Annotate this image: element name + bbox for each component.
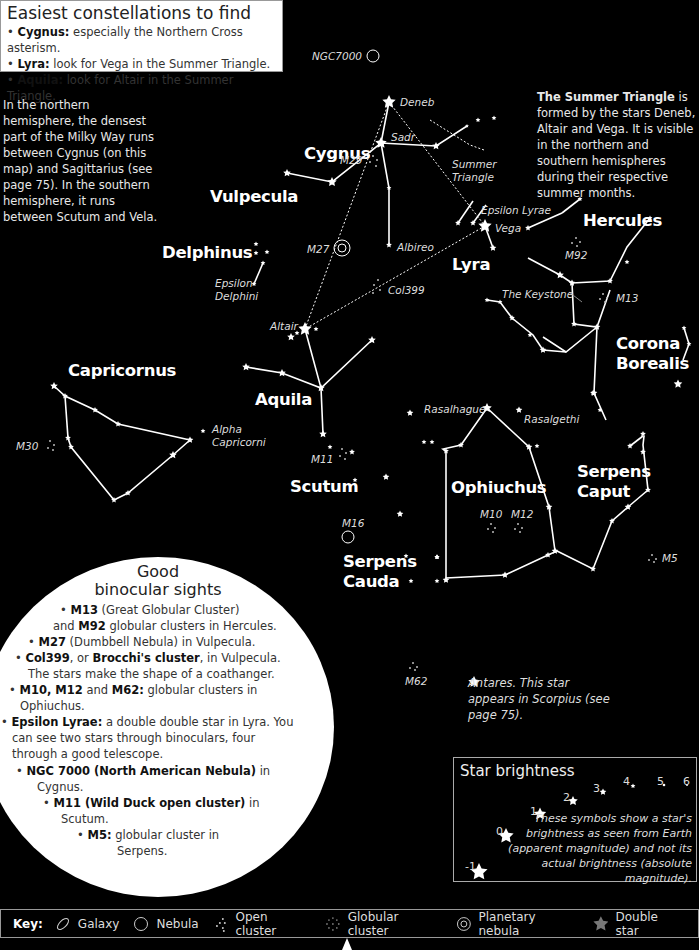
binocular-item: Serpens. [117, 843, 167, 859]
binocular-item: through a good telescope. [12, 746, 163, 762]
key-item-nebula: Nebula [133, 916, 198, 932]
label-epsilon-lyrae: Epsilon Lyrae [481, 204, 551, 216]
constellation-aquila: Aquila [255, 390, 312, 409]
key-label: Key: [13, 917, 43, 931]
constellation-borealis: Borealis [616, 354, 689, 373]
binocular-item: • Col399, or Brocchi's cluster, in Vulpe… [15, 650, 281, 666]
easiest-constellations-panel: Easiest constellations to find • Cygnus:… [0, 0, 283, 72]
label-keystone: The Keystone [502, 288, 573, 300]
constellation-lyra: Lyra [452, 255, 490, 274]
map-key: Key: Galaxy Nebula Open cluster Globular… [0, 909, 699, 938]
antares-note: Antares. This star appears in Scorpius (… [468, 675, 618, 723]
brightness-title: Star brightness [460, 762, 575, 780]
key-item-double-star: Double star [593, 910, 684, 938]
constellation-serpens-caput: Serpens [577, 462, 651, 481]
magnitude-label: 4 [623, 775, 630, 788]
label-m29: M29 [340, 154, 362, 166]
constellation-caput: Caput [577, 482, 630, 501]
constellation-corona: Corona [616, 334, 680, 353]
key-item-galaxy: Galaxy [55, 916, 120, 932]
m27-planetary-nebula-icon [334, 240, 350, 256]
binocular-item: Cygnus. [37, 779, 83, 795]
label-vega: Vega [495, 222, 521, 234]
binocular-item: • M13 (Great Globular Cluster) [60, 602, 239, 618]
constellation-scutum: Scutum [290, 477, 358, 496]
label-capricorni: Capricorni [212, 436, 266, 448]
label-m11: M11 [311, 453, 333, 465]
label-m5: M5 [662, 552, 678, 564]
label-albireo: Albireo [397, 241, 434, 253]
easiest-item: • Cygnus: especially the Northern Cross … [7, 24, 276, 56]
label-ngc7000: NGC7000 [312, 50, 362, 62]
label-alpha: Alpha [212, 423, 242, 435]
magnitude-label: 2 [563, 791, 570, 804]
key-item-open-cluster: Open cluster [213, 910, 311, 938]
north-arrow-icon [342, 938, 352, 950]
label-m30: M30 [16, 440, 38, 452]
galaxy-icon [55, 916, 71, 932]
label-epsilon: Epsilon [215, 277, 253, 289]
label-m92: M92 [565, 249, 587, 261]
easiest-item: • Lyra: look for Vega in the Summer Tria… [7, 56, 276, 72]
binocular-item: • M27 (Dumbbell Nebula) in Vulpecula. [28, 634, 255, 650]
deep-sky-objects [334, 50, 379, 543]
constellation-vulpecula: Vulpecula [210, 187, 298, 206]
magnitude-label: 3 [593, 782, 600, 795]
nebula-icon [133, 916, 149, 932]
binocular-item: • M5: globular cluster in [77, 827, 219, 843]
double-star-icon [593, 916, 609, 932]
constellation-capricornus: Capricornus [68, 361, 176, 380]
binocular-item: Ophiuchus. [20, 698, 85, 714]
label-deneb: Deneb [400, 96, 434, 108]
constellation-delphinus: Delphinus [162, 243, 252, 262]
double-stars [187, 242, 392, 443]
summer-triangle-note: The Summer Triangle is formed by the sta… [537, 89, 699, 201]
magnitude-label: -1 [465, 860, 476, 873]
brightness-description: These symbols show a star's brightness a… [482, 811, 692, 886]
magnitude-label: 5 [657, 775, 664, 788]
globular-cluster-icon [325, 916, 341, 932]
constellation-serpens-cauda: Serpens [343, 552, 417, 571]
binocular-item: and M92 globular clusters in Hercules. [53, 618, 277, 634]
label-altair: Altair [270, 320, 298, 332]
label-m12: M12 [511, 508, 533, 520]
constellation-hercules: Hercules [583, 211, 662, 230]
magnitude-label: 6 [683, 775, 690, 788]
key-item-globular-cluster: Globular cluster [325, 910, 442, 938]
ngc7000-nebula-icon [367, 50, 379, 62]
milky-way-note: In the northern hemisphere, the densest … [3, 97, 163, 225]
binocular-item: can see two stars through binoculars, fo… [12, 730, 255, 746]
label-m62: M62 [405, 675, 427, 687]
label-m13: M13 [616, 292, 638, 304]
binocular-item: • Epsilon Lyrae: a double double star in… [1, 714, 293, 730]
binocular-subtitle: binocular sights [0, 581, 334, 599]
planetary-nebula-icon [456, 916, 472, 932]
label-delphini: Delphini [215, 290, 258, 302]
label-col399: Col399 [388, 284, 425, 296]
binocular-item: • NGC 7000 (North American Nebula) in [16, 763, 270, 779]
binocular-item: • M11 (Wild Duck open cluster) in [43, 795, 259, 811]
constellation-ophiuchus: Ophiuchus [451, 478, 546, 497]
constellation-cauda: Cauda [343, 572, 399, 591]
label-summer: Summer [452, 158, 497, 170]
open-cluster-icon [213, 916, 229, 932]
binocular-title: Good [0, 563, 334, 581]
binocular-item: Scutum. [61, 811, 109, 827]
label-m10: M10 [480, 508, 502, 520]
label-m27: M27 [307, 243, 329, 255]
label-triangle: Triangle [452, 171, 494, 183]
label-rasalhague: Rasalhague [424, 403, 485, 415]
binocular-item: • M10, M12 and M62: globular clusters in [9, 682, 257, 698]
key-item-planetary-nebula: Planetary nebula [456, 910, 579, 938]
binocular-item: The stars make the shape of a coathanger… [28, 666, 275, 682]
star-brightness-panel: Star brightness -1 0 1 2 3 4 5 6 These s… [453, 757, 697, 882]
easiest-title: Easiest constellations to find [7, 3, 276, 23]
label-m16: M16 [342, 517, 364, 529]
label-rasalgethi: Rasalgethi [524, 413, 579, 425]
label-sadr: Sadr [391, 131, 415, 143]
m16-nebula-icon [342, 531, 354, 543]
